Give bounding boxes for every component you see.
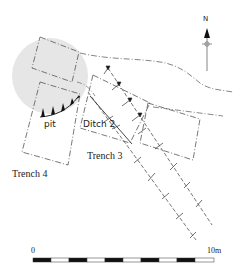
ditch-edge-east <box>108 68 212 225</box>
ditch-2-label: Ditch 2 <box>83 119 115 129</box>
boundary-line <box>80 53 233 92</box>
north-label: N <box>203 15 208 23</box>
pit-area <box>12 38 88 114</box>
trench-line-right <box>153 107 223 116</box>
ditch-edge-west <box>88 92 196 240</box>
scale-bar <box>33 258 214 262</box>
site-plan <box>0 0 235 276</box>
scale-end-label: 10m <box>207 246 221 255</box>
scale-start-label: 0 <box>31 246 35 255</box>
trench-4-label: Trench 4 <box>12 168 47 179</box>
trench-3-label: Trench 3 <box>87 150 122 161</box>
pit-label: pit <box>44 119 56 129</box>
north-arrow <box>202 28 212 71</box>
